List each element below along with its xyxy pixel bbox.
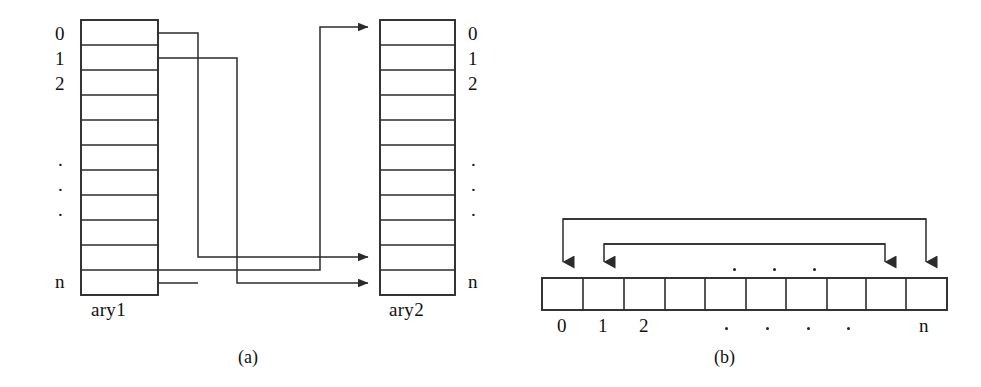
figure-diagram-root: 0 1 2 . . . n 0 1 2 . . . n ary1 ary2 0 …	[0, 0, 981, 387]
ary1-index-label-n: n	[55, 272, 65, 291]
panel-b-bottom-dot-2	[766, 327, 769, 330]
ary1-ellipsis-dot-1: .	[58, 150, 63, 169]
panel-b-index-label-n: n	[919, 316, 929, 335]
ary2-ellipsis-dot-1: .	[471, 150, 476, 169]
connector-ary1-1-to-ary2-10	[158, 58, 368, 283]
panel-b-bottom-dot-3	[807, 327, 810, 330]
panel-b-top-dot-3	[813, 268, 816, 271]
panel-b-index-label-2: 2	[639, 316, 649, 335]
panel-b-bottom-dot-1	[725, 327, 728, 330]
connector-ary1-0-to-ary2-9	[158, 33, 368, 257]
ary2-ellipsis-dot-3: .	[471, 200, 476, 219]
connector-ary1-9-to-ary2-0	[158, 27, 368, 270]
ary2-index-label-1: 1	[468, 49, 478, 68]
caption-panel-b: (b)	[714, 348, 735, 366]
ary2-index-label-0: 0	[468, 24, 478, 43]
panel-b-top-dot-1	[733, 268, 736, 271]
array-ary2	[380, 20, 455, 295]
ary2-ellipsis-dot-2: .	[471, 175, 476, 194]
figure-vector-canvas	[0, 0, 981, 387]
ary2-index-label-2: 2	[468, 74, 478, 93]
ary1-ellipsis-dot-2: .	[58, 175, 63, 194]
array-panel-b	[542, 278, 947, 310]
panel-b-index-label-0: 0	[557, 316, 567, 335]
panel-b-top-dot-2	[773, 268, 776, 271]
connector-b-inner-swap-left	[604, 244, 885, 262]
connector-b-inner-swap-right	[604, 244, 885, 262]
ary1-name-label: ary1	[91, 300, 126, 319]
ary1-index-label-2: 2	[55, 74, 65, 93]
ary1-index-label-0: 0	[55, 24, 65, 43]
ary1-ellipsis-dot-3: .	[58, 200, 63, 219]
panel-b-index-label-1: 1	[598, 316, 608, 335]
connector-b-outer-swap-left	[563, 219, 926, 262]
panel-b-bottom-dot-4	[847, 327, 850, 330]
ary2-index-label-n: n	[468, 272, 478, 291]
caption-panel-a: (a)	[238, 348, 258, 366]
array-ary1	[81, 20, 158, 295]
ary1-index-label-1: 1	[55, 49, 65, 68]
connector-b-outer-swap-right	[563, 219, 926, 262]
ary2-name-label: ary2	[389, 300, 424, 319]
